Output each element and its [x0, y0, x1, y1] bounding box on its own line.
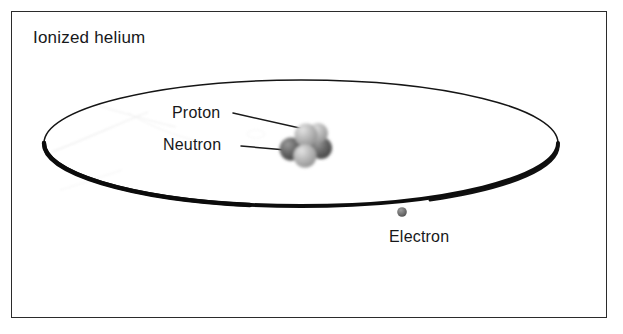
electron-particle [397, 207, 407, 217]
diagram-canvas: Ionized helium Proton Neutron Electron [0, 0, 623, 334]
proton-particle [294, 145, 317, 168]
nucleus [280, 123, 333, 168]
proton-label: Proton [172, 104, 220, 122]
diagram-artwork [0, 0, 623, 334]
page-title: Ionized helium [33, 28, 145, 48]
neutron-leader [241, 146, 286, 150]
electron-label: Electron [389, 228, 449, 246]
neutron-label: Neutron [163, 136, 221, 154]
proton-particle [295, 124, 318, 147]
